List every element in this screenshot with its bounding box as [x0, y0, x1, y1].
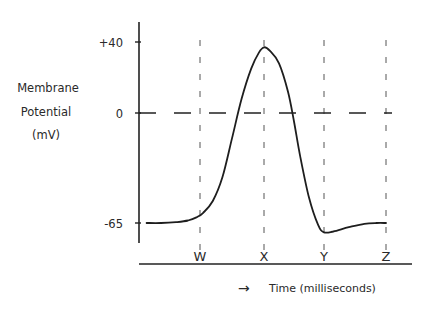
y-axis-label-line-1: Membrane [17, 81, 79, 95]
time-marker-label-x: X [260, 249, 269, 264]
time-marker-label-w: W [194, 249, 207, 264]
x-axis-label: Time (milliseconds) [268, 282, 376, 295]
y-tick-label: 0 [116, 107, 123, 121]
x-axis-arrow: → [238, 280, 250, 296]
y-tick-label: -65 [104, 217, 123, 231]
time-marker-label-y: Y [319, 249, 328, 264]
y-axis-label-line-3: (mV) [32, 128, 60, 142]
membrane-potential-curve [147, 47, 386, 233]
action-potential-chart: Membrane Potential (mV) +400-65 WXYZ → T… [0, 0, 425, 314]
y-tick-label: +40 [99, 36, 123, 50]
time-marker-label-z: Z [382, 249, 391, 264]
y-axis-label-line-2: Potential [21, 105, 71, 119]
